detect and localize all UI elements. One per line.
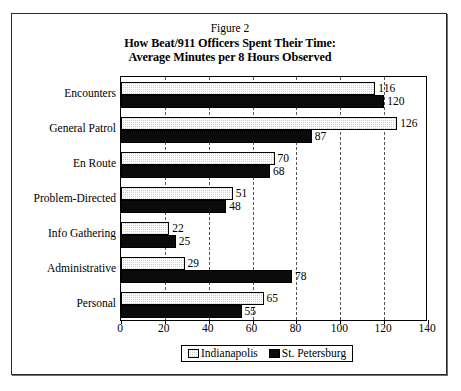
bar-value-info-gathering-st-petersburg: 25	[179, 236, 191, 248]
bar-value-encounters-st-petersburg: 120	[387, 96, 404, 108]
x-tick-label-120: 120	[375, 323, 392, 335]
bar-administrative-indianapolis	[121, 257, 185, 270]
bar-info-gathering-st-petersburg	[121, 235, 176, 248]
bar-value-encounters-indianapolis: 116	[378, 83, 395, 95]
bar-value-en-route-st-petersburg: 68	[273, 166, 285, 178]
category-label-info-gathering: Info Gathering	[16, 228, 116, 240]
gridline-80	[296, 77, 297, 320]
bar-problem-directed-st-petersburg	[121, 200, 226, 213]
category-label-personal: Personal	[16, 298, 116, 310]
bar-general-patrol-st-petersburg	[121, 130, 312, 143]
chart-plot-area: 1161201268770685148222529786555	[120, 76, 427, 321]
figure-number: Figure 2	[12, 22, 448, 36]
y-axis-category-labels: EncountersGeneral PatrolEn RouteProblem-…	[16, 76, 116, 321]
x-tick-label-140: 140	[418, 323, 435, 335]
figure-title-line-2: Average Minutes per 8 Hours Observed	[12, 50, 448, 64]
x-tick-label-40: 40	[202, 323, 214, 335]
x-tick-label-80: 80	[290, 323, 302, 335]
figure-title-block: Figure 2 How Beat/911 Officers Spent The…	[12, 22, 448, 64]
legend-label: Indianapolis	[201, 348, 258, 360]
category-label-administrative: Administrative	[16, 263, 116, 275]
category-label-problem-directed: Problem-Directed	[16, 193, 116, 205]
bar-problem-directed-indianapolis	[121, 187, 233, 200]
bar-en-route-indianapolis	[121, 152, 275, 165]
bar-value-administrative-indianapolis: 29	[188, 258, 200, 270]
category-label-general-patrol: General Patrol	[16, 123, 116, 135]
x-tick-label-20: 20	[158, 323, 170, 335]
bar-value-personal-st-petersburg: 55	[245, 306, 257, 318]
bar-value-en-route-indianapolis: 70	[278, 153, 290, 165]
bar-value-general-patrol-indianapolis: 126	[400, 118, 417, 130]
bar-value-problem-directed-indianapolis: 51	[236, 188, 248, 200]
legend-item-st-petersburg[interactable]: St. Petersburg	[269, 348, 346, 360]
stipple-swatch	[188, 349, 199, 358]
gridline-100	[340, 77, 341, 320]
bar-value-general-patrol-st-petersburg: 87	[315, 131, 327, 143]
x-axis-tick-labels: 020406080100120140	[120, 323, 427, 339]
category-label-en-route: En Route	[16, 158, 116, 170]
chart-plot-wrapper: EncountersGeneral PatrolEn RouteProblem-…	[120, 76, 427, 321]
bar-administrative-st-petersburg	[121, 270, 292, 283]
bar-value-problem-directed-st-petersburg: 48	[229, 201, 241, 213]
figure-title-line-1: How Beat/911 Officers Spent Their Time:	[12, 36, 448, 50]
bar-general-patrol-indianapolis	[121, 117, 397, 130]
figure-frame: Figure 2 How Beat/911 Officers Spent The…	[11, 13, 447, 375]
category-label-encounters: Encounters	[16, 88, 116, 100]
bar-personal-st-petersburg	[121, 305, 242, 318]
bar-value-administrative-st-petersburg: 78	[295, 271, 307, 283]
bar-value-info-gathering-indianapolis: 22	[172, 223, 184, 235]
bar-en-route-st-petersburg	[121, 165, 270, 178]
bar-personal-indianapolis	[121, 292, 264, 305]
chart-legend: IndianapolisSt. Petersburg	[181, 345, 353, 362]
bar-encounters-st-petersburg	[121, 95, 384, 108]
gridline-120	[384, 77, 385, 320]
x-tick-label-60: 60	[246, 323, 258, 335]
solid-black-swatch	[269, 349, 280, 358]
bar-encounters-indianapolis	[121, 82, 375, 95]
bar-info-gathering-indianapolis	[121, 222, 169, 235]
bar-value-personal-indianapolis: 65	[267, 293, 279, 305]
legend-item-indianapolis[interactable]: Indianapolis	[188, 348, 258, 360]
x-tick-label-0: 0	[117, 323, 123, 335]
gridline-60	[253, 77, 254, 320]
legend-label: St. Petersburg	[282, 348, 346, 360]
x-tick-label-100: 100	[331, 323, 348, 335]
